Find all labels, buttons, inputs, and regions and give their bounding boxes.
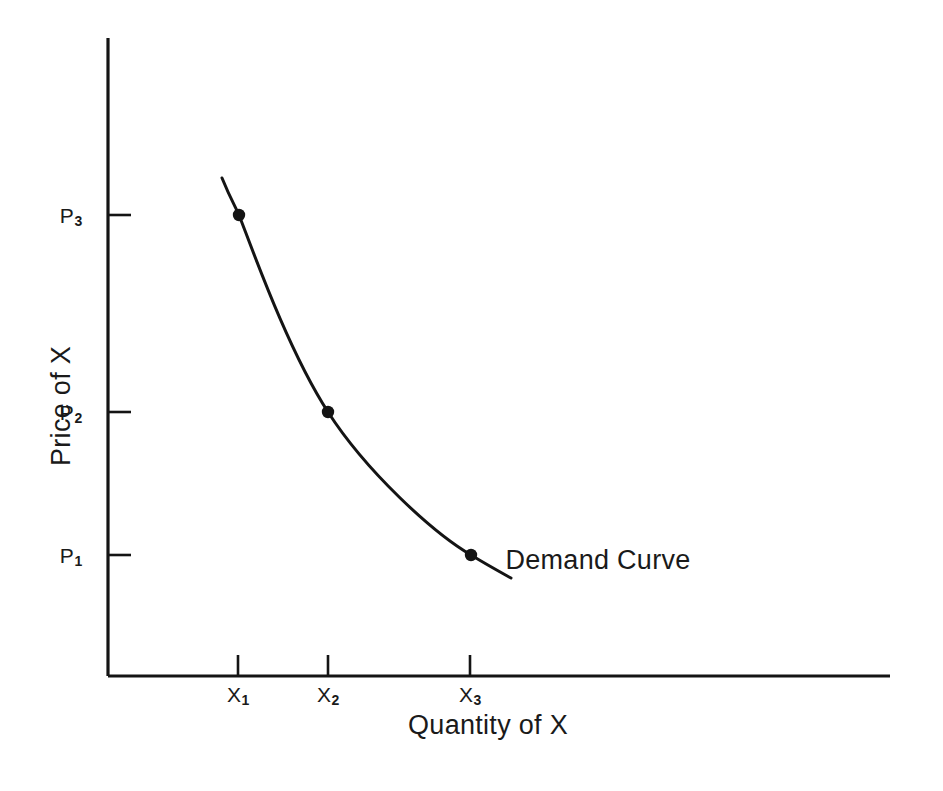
x-axis-title: Quantity of X	[408, 712, 568, 739]
x-tick-label-x3-sub: 3	[474, 692, 482, 708]
y-tick-label-p1: P1	[60, 545, 82, 566]
x-tick-label-x2-base: X	[317, 683, 331, 706]
x-tick-label-x1-base: X	[227, 683, 241, 706]
demand-curve-figure: P3 P2 P1 X1 X2 X3 Price of X Quantity of…	[0, 0, 943, 791]
demand-curve-path	[222, 178, 511, 578]
y-tick-label-p3-sub: 3	[75, 213, 83, 229]
y-tick-label-p3: P3	[60, 205, 82, 226]
chart-canvas	[0, 0, 943, 791]
y-tick-label-p1-base: P	[60, 544, 74, 567]
y-axis-title: Price of X	[48, 346, 75, 466]
data-point-x1-p3	[233, 209, 245, 221]
data-point-x2-p2	[322, 406, 334, 418]
x-tick-label-x1-sub: 1	[242, 692, 250, 708]
demand-curve-label: Demand Curve	[505, 547, 690, 574]
data-point-x3-p1	[465, 549, 477, 561]
x-tick-label-x2-sub: 2	[332, 692, 340, 708]
y-tick-label-p3-base: P	[60, 204, 74, 227]
x-tick-label-x3: X3	[459, 684, 481, 705]
x-tick-label-x2: X2	[317, 684, 339, 705]
y-tick-label-p1-sub: 1	[75, 553, 83, 569]
x-tick-label-x1: X1	[227, 684, 249, 705]
x-tick-label-x3-base: X	[459, 683, 473, 706]
